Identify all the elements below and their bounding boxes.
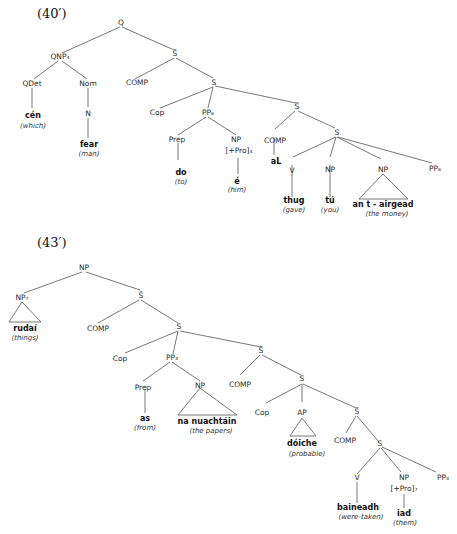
word-aL: aL: [271, 157, 282, 166]
example-label-43: (43′): [37, 235, 67, 250]
node-V: V: [289, 166, 295, 175]
node-V: V: [354, 473, 360, 482]
tree-43: (43′) NP NP₇ S̄ COMP S C: [9, 235, 449, 527]
word-iad: iad: [397, 509, 411, 518]
node-Sbar: S̄: [139, 291, 144, 300]
word-cen: cén: [25, 110, 41, 120]
gloss-the-papers: (the papers): [189, 427, 232, 435]
gloss-things: (things): [11, 334, 38, 342]
node-COMP: COMP: [126, 78, 149, 87]
node-PP6: PP₆: [202, 108, 214, 117]
gloss-which: (which): [20, 122, 46, 130]
node-PP3: PP₃: [166, 353, 178, 362]
node-Sbar2: S̄: [259, 346, 264, 355]
node-NP: NP: [231, 135, 242, 144]
node-PP3b: PP₃: [437, 473, 449, 482]
gloss-from: (from): [134, 424, 156, 432]
node-S2: S: [300, 374, 305, 383]
word-as: as: [140, 414, 150, 423]
node-Sbar2: S̄: [295, 102, 300, 111]
tree-40: (40′) Q QNP₄ S̄ QDet Nom: [20, 6, 441, 218]
node-Cop: Cop: [113, 354, 128, 363]
node-NP3: NP: [378, 165, 389, 174]
node-Nom: Nom: [79, 79, 97, 88]
node-N: N: [85, 109, 91, 118]
node-AP: AP: [297, 408, 307, 417]
node-QNP: QNP₄: [50, 52, 69, 61]
word-doiche: dóiche: [287, 438, 317, 448]
word-do: do: [175, 168, 187, 177]
node-NP-root: NP: [79, 263, 90, 272]
word-airgead: an t - airgead: [353, 200, 414, 209]
gloss-you: (you): [321, 206, 340, 214]
node-pro-feature: [+Pro]₄: [225, 146, 252, 155]
node-COMP: COMP: [87, 324, 110, 333]
node-COMP3: COMP: [334, 436, 357, 445]
word-baineadh: baineadh: [337, 503, 379, 512]
node-Sbar3: S̄: [355, 407, 360, 416]
gloss-were-taken: (were-taken): [338, 513, 383, 521]
gloss-gave: (gave): [283, 206, 306, 214]
node-Q: Q: [118, 18, 124, 27]
node-Cop: Cop: [150, 108, 165, 117]
node-S2: S: [335, 128, 340, 137]
gloss-him: (him): [228, 186, 247, 194]
node-NP2: NP: [399, 473, 410, 482]
node-QDet: QDet: [22, 79, 41, 88]
node-Prep: Prep: [135, 383, 152, 392]
word-e: é: [234, 176, 240, 186]
word-tu: tú: [325, 196, 335, 205]
gloss-probable: (probable): [289, 450, 326, 458]
word-nuachtain: na nuachtáin: [178, 417, 237, 426]
node-S: S: [212, 78, 217, 87]
node-NP7: NP₇: [15, 293, 28, 302]
syntax-tree-diagrams: (40′) Q QNP₄ S̄ QDet Nom: [0, 0, 457, 534]
node-Prep: Prep: [169, 135, 186, 144]
word-rudai: rudaí: [13, 324, 38, 333]
node-S3: S: [378, 439, 383, 448]
word-thug: thug: [284, 196, 305, 205]
node-COMP2: COMP: [264, 136, 287, 145]
gloss-them: (them): [393, 519, 417, 527]
gloss-to: (to): [175, 178, 188, 186]
node-COMP2: COMP: [229, 380, 252, 389]
word-fear: fear: [80, 140, 98, 149]
node-Cop2: Cop: [255, 408, 270, 417]
node-PP6b: PP₆: [429, 164, 441, 173]
gloss-man: (man): [78, 150, 99, 158]
node-pro-feature: [+Pro]₇: [390, 484, 417, 493]
node-S: S: [177, 322, 182, 331]
node-Sbar: S̄: [173, 49, 178, 58]
node-NP1: NP: [195, 381, 206, 390]
example-label-40: (40′): [37, 6, 67, 21]
node-NP2: NP: [325, 165, 336, 174]
gloss-the-money: (the money): [365, 210, 408, 218]
